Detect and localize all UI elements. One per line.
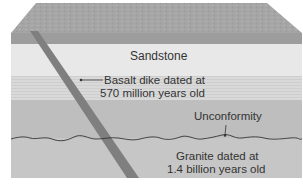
unconformity-leader-dot: [224, 134, 226, 136]
basalt-label-line2: 570 million years old: [100, 87, 205, 100]
granite-label-line1: Granite dated at: [176, 150, 258, 163]
top-front-edge: [11, 33, 302, 44]
unconformity-label: Unconformity: [194, 110, 262, 123]
granite-label-line2: 1.4 billion years old: [167, 163, 265, 176]
top-surface: [11, 3, 302, 33]
basalt-leader-dot: [80, 79, 83, 82]
sandstone-label: Sandstone: [130, 50, 187, 63]
basalt-label-line1: Basalt dike dated at: [104, 74, 205, 87]
